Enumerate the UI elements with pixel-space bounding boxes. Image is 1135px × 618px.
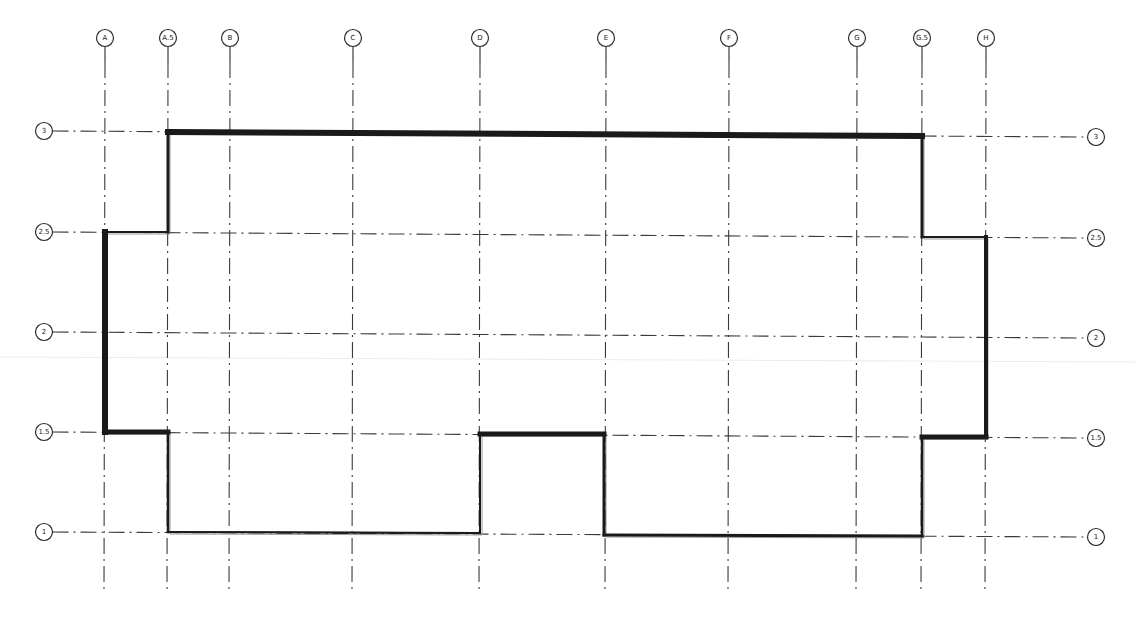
wall-segment [604,535,922,536]
grid-bubble-row-2-5-right[interactable]: 2.5 [1088,230,1105,247]
grid-bubble-column-a[interactable]: A [97,30,114,63]
grid-bubble-row-3-right[interactable]: 3 [1088,129,1105,146]
wall-segment [168,132,922,136]
grid-bubble-label: B [228,34,233,42]
grid-bubble-row-3-left[interactable]: 3 [36,123,53,140]
grid-bubble-label: 1 [42,528,46,536]
grid-bubble-label: A [103,34,108,42]
grid-bubble-label: 2.5 [1090,234,1101,242]
grid-line-row-2 [53,332,1088,338]
grid-bubble-label: 1.5 [1090,434,1101,442]
grid-bubble-label: G.5 [916,34,928,42]
grid-bubble-label: C [351,34,356,42]
floor-plan-canvas: AA.5BCDEFGG.5H 332.52.5221.51.511 [0,0,1135,618]
grid-bubble-label: F [727,34,731,42]
grid-bubble-column-a-5[interactable]: A.5 [160,30,177,63]
row-grid-bubbles: 332.52.5221.51.511 [36,123,1105,546]
grid-bubble-row-1-left[interactable]: 1 [36,524,53,541]
grid-line-column-b [229,62,230,590]
grid-line-column-c [352,62,353,590]
grid-bubble-column-g-5[interactable]: G.5 [914,30,931,63]
wall-outline [105,132,986,536]
grid-bubble-column-f[interactable]: F [721,30,738,63]
grid-bubble-label: G [854,34,859,42]
grid-bubble-label: D [477,34,482,42]
grid-bubble-label: 3 [1094,133,1098,141]
grid-bubble-label: H [983,34,988,42]
building-outline [105,132,988,538]
grid-bubble-label: 3 [42,127,46,135]
floor-plan-drawing: AA.5BCDEFGG.5H 332.52.5221.51.511 [0,0,1135,618]
grid-bubble-column-d[interactable]: D [472,30,489,63]
row-grid-lines [53,131,1088,537]
grid-bubble-row-1-right[interactable]: 1 [1088,529,1105,546]
column-grid-lines [104,62,986,590]
grid-bubble-column-e[interactable]: E [598,30,615,63]
grid-bubble-row-2-right[interactable]: 2 [1088,330,1105,347]
grid-bubble-row-1-5-right[interactable]: 1.5 [1088,430,1105,447]
grid-bubble-column-g[interactable]: G [849,30,866,63]
grid-bubble-column-b[interactable]: B [222,30,239,63]
grid-bubble-label: E [604,34,608,42]
grid-line-column-g [856,62,857,590]
grid-bubble-row-1-5-left[interactable]: 1.5 [36,424,53,441]
grid-bubble-label: 1 [1094,533,1098,541]
grid-bubble-label: 2 [42,328,46,336]
grid-bubble-label: 2.5 [38,228,49,236]
wall-segment [168,532,480,533]
grid-line-column-f [728,62,729,590]
column-grid-bubbles: AA.5BCDEFGG.5H [97,30,995,63]
grid-bubble-row-2-5-left[interactable]: 2.5 [36,224,53,241]
scan-artifact-line [0,357,1135,362]
grid-bubble-column-h[interactable]: H [978,30,995,63]
grid-bubble-column-c[interactable]: C [345,30,362,63]
grid-bubble-label: 1.5 [38,428,49,436]
grid-bubble-row-2-left[interactable]: 2 [36,324,53,341]
grid-bubble-label: 2 [1094,334,1098,342]
wall-inner-line [107,134,988,538]
grid-bubble-label: A.5 [162,34,173,42]
